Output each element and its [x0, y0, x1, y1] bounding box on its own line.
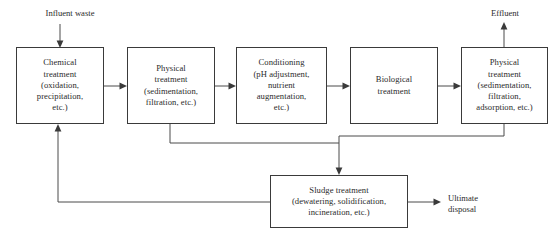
edge-sludge-recycle-to-chemical	[55, 124, 270, 202]
io-label-influent-waste: Influent waste	[20, 8, 120, 19]
process-flow-diagram: Chemicaltreatment(oxidation,precipitatio…	[0, 0, 560, 244]
edge-physical1-to-conditioning	[215, 83, 236, 90]
io-label-effluent: Effluent	[479, 8, 531, 19]
node-conditioning	[237, 48, 327, 124]
node-physical-treatment-1	[128, 48, 215, 124]
node-chemical-treatment	[17, 48, 104, 124]
node-sludge-treatment	[271, 176, 408, 228]
io-label-ultimate-disposal: Ultimatedisposal	[448, 193, 508, 215]
node-biological-treatment	[351, 48, 438, 124]
edge-conditioning-to-biological	[327, 83, 350, 90]
edge-biological-to-physical2	[438, 83, 461, 90]
node-physical-treatment-2	[462, 48, 548, 124]
edge-physical2-to-sludge	[336, 124, 504, 175]
edge-sludge-to-disposal	[408, 199, 441, 206]
edge-physical1-to-sludge	[170, 124, 339, 143]
edge-influent-to-chemical	[57, 24, 64, 48]
edge-physical2-to-effluent	[501, 22, 508, 47]
edge-chemical-to-physical1	[104, 83, 127, 90]
